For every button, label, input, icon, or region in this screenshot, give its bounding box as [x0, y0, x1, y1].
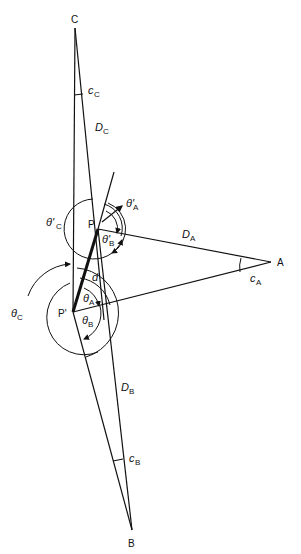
svg-text:C: C — [17, 313, 23, 322]
arc-c-b — [113, 459, 123, 461]
point-p-label: P — [88, 219, 95, 230]
svg-text:B: B — [129, 387, 134, 396]
svg-text:C: C — [56, 222, 62, 231]
svg-text:C: C — [94, 90, 100, 99]
label-theta-prime-a: θ' A — [126, 197, 139, 212]
line-c-pprime — [73, 28, 75, 312]
label-d: d — [92, 271, 99, 283]
label-d-c: D C — [95, 121, 109, 136]
line-p-b — [98, 229, 132, 530]
line-pprime-b — [73, 312, 132, 530]
svg-text:B: B — [109, 239, 114, 248]
arc-outer-pprime-3 — [86, 306, 119, 357]
svg-text:A: A — [256, 278, 262, 287]
svg-text:A: A — [133, 203, 139, 212]
svg-text:A: A — [89, 298, 95, 307]
svg-text:D: D — [121, 381, 129, 393]
svg-text:B: B — [88, 320, 93, 329]
label-c-b: c B — [129, 452, 140, 467]
point-a-label: A — [277, 257, 284, 268]
point-b-label: B — [128, 538, 135, 549]
label-d-a: D A — [182, 228, 196, 243]
label-c-c: c C — [88, 84, 100, 99]
label-theta-prime-c: θ' C — [46, 216, 62, 231]
label-d-b: D B — [121, 381, 134, 396]
label-theta-prime-b: θ' B — [102, 233, 114, 248]
svg-text:C: C — [103, 127, 109, 136]
arc-theta-c — [47, 283, 98, 355]
theta-prime-a-pointer — [102, 206, 122, 222]
svg-text:D: D — [95, 121, 103, 133]
arc-theta-c-outer — [28, 264, 70, 296]
label-c-a: c A — [250, 272, 262, 287]
point-c-label: C — [71, 14, 78, 25]
point-pprime-label: P' — [58, 308, 67, 319]
triangulation-diagram: C P P' A B D C D A D B d c C c A c B θ' … — [0, 0, 301, 554]
label-theta-b: θ B — [82, 314, 93, 329]
svg-text:B: B — [135, 458, 140, 467]
label-theta-c: θ C — [11, 307, 23, 322]
svg-text:D: D — [182, 228, 190, 240]
svg-text:θ': θ' — [46, 216, 55, 228]
svg-text:A: A — [190, 234, 196, 243]
reference-line — [98, 172, 114, 229]
